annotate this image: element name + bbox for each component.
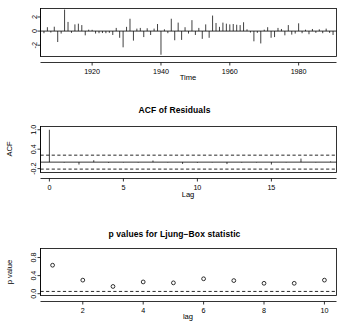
pvalue-x-tick-label: 10: [320, 306, 328, 315]
pvalue-point: [141, 280, 145, 284]
acf-x-tick-label: 5: [121, 183, 125, 192]
pvalue-panel: 0.00.40.8 246810 lag p value: [0, 215, 349, 334]
pvalue-point: [323, 278, 327, 282]
acf-x-tick-label: 0: [47, 183, 51, 192]
pvalue-x-axis-title: lag: [183, 312, 193, 321]
pvalue-plot: 0.00.40.8 246810 lag p value: [0, 215, 349, 334]
pvalue-x-tick-label: 4: [141, 306, 145, 315]
pvalue-point: [202, 277, 206, 281]
acf-y-axis-title: ACF: [5, 141, 14, 157]
pvalue-point: [232, 279, 236, 283]
pvalue-point: [111, 285, 115, 289]
pvalue-point: [51, 263, 55, 267]
pvalue-point: [262, 281, 266, 285]
acf-y-tick-label: 1.0: [29, 125, 38, 135]
acf-x-axis-title: Lag: [182, 190, 195, 199]
residuals-x-tick-label: 1980: [291, 67, 307, 76]
residuals-y-tick-label: -2: [30, 42, 39, 48]
pvalue-plot-frame: [41, 249, 337, 296]
acf-x-tick-label: 15: [267, 183, 275, 192]
residuals-y-tick-label: 0: [30, 29, 39, 33]
acf-x-tick-label: 10: [193, 183, 201, 192]
residuals-x-tick-label: 1920: [84, 67, 100, 76]
acf-panel: -0.20.41.0 051015 Lag ACF: [0, 100, 349, 215]
pvalue-x-tick-label: 6: [202, 306, 206, 315]
residuals-y-tick-label: 2: [30, 15, 39, 19]
acf-plot-frame: [41, 127, 337, 173]
acf-y-tick-label: 0.4: [29, 144, 38, 154]
pvalue-y-axis-title: p value: [5, 260, 14, 285]
pvalue-y-tick-label: 0.4: [29, 271, 38, 281]
residuals-x-tick-label: 1960: [222, 67, 238, 76]
residuals-x-axis-title: Time: [180, 73, 197, 82]
acf-y-tick-label: -0.2: [29, 162, 38, 174]
pvalue-x-tick-label: 2: [81, 306, 85, 315]
pvalue-point: [81, 278, 85, 282]
acf-plot: -0.20.41.0 051015 Lag ACF: [0, 100, 349, 215]
pvalue-y-tick-label: 0.0: [29, 289, 38, 299]
pvalue-y-tick-label: 0.8: [29, 253, 38, 263]
pvalue-point: [172, 281, 176, 285]
residuals-x-tick-label: 1940: [153, 67, 169, 76]
pvalue-point: [292, 281, 296, 285]
pvalue-x-tick-label: 8: [262, 306, 266, 315]
residuals-panel: -202 1920194019601980 Time: [0, 0, 349, 100]
residuals-plot: -202 1920194019601980 Time: [0, 0, 349, 100]
